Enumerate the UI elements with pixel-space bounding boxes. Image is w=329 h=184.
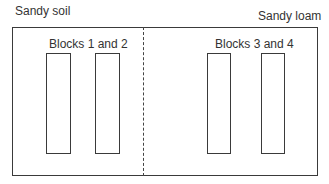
plot-block-4 bbox=[261, 53, 285, 154]
plot-block-1 bbox=[46, 53, 71, 154]
soil-boundary-dashed-line bbox=[143, 27, 144, 176]
soil-label-right: Sandy loam bbox=[258, 9, 321, 23]
group-label-left: Blocks 1 and 2 bbox=[49, 37, 128, 51]
plot-block-2 bbox=[95, 53, 120, 154]
plot-block-3 bbox=[207, 53, 231, 154]
soil-label-left: Sandy soil bbox=[15, 4, 70, 18]
group-label-right: Blocks 3 and 4 bbox=[215, 37, 294, 51]
